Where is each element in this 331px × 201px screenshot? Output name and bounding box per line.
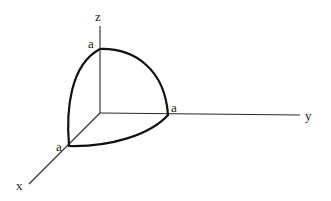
x-intercept-label: a: [56, 139, 62, 154]
z-axis-label: z: [95, 9, 101, 24]
arc-x-to-z: [68, 49, 100, 146]
arc-y-to-x: [69, 115, 168, 146]
x-axis: [29, 113, 100, 184]
octant-diagram: z y x a a a: [0, 0, 331, 201]
y-axis: [100, 113, 300, 115]
arc-z-to-y: [100, 49, 168, 115]
x-axis-label: x: [16, 178, 23, 193]
y-axis-label: y: [305, 108, 312, 123]
y-intercept-label: a: [171, 100, 177, 115]
z-intercept-label: a: [88, 36, 94, 51]
